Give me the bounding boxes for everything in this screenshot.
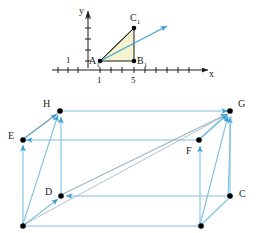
vertex-D	[58, 193, 64, 199]
label-C: C	[239, 189, 246, 199]
x-tick-label-5: 5	[131, 76, 136, 85]
label-A1: A1	[89, 56, 100, 69]
edge-A-to-D	[24, 199, 58, 225]
vertex-A-unlabeled	[20, 223, 26, 229]
x-axis-label: x	[209, 69, 214, 79]
label-H: H	[43, 99, 50, 109]
triangle-A1B1C1	[100, 28, 134, 61]
vertex-G	[227, 108, 233, 114]
figure-svg	[0, 0, 264, 233]
vertex-B-unlabeled	[198, 223, 204, 229]
y-axis-label: y	[79, 6, 84, 16]
x-tick-label-1: 1	[97, 76, 102, 85]
diagonal-A-to-H	[23, 115, 58, 224]
vertex-H	[57, 108, 63, 114]
label-B1: B1	[137, 56, 147, 69]
point-B1	[132, 59, 137, 64]
edge-E-to-H-overlay	[24, 113, 58, 138]
box-edges	[23, 111, 231, 226]
body-diagonal-A-to-G	[25, 115, 226, 224]
edge-B-to-C	[201, 199, 228, 225]
label-C1: C1	[130, 13, 140, 26]
label-G: G	[238, 99, 245, 109]
vertex-C	[227, 193, 233, 199]
figure-canvas: y x 1 1 5 A1 B1 C1 H G E F D C	[0, 0, 264, 233]
body-diagonal-D-to-G	[63, 114, 227, 194]
point-C1	[132, 26, 137, 31]
diagonal-B-to-G	[200, 116, 228, 225]
label-F: F	[186, 146, 192, 156]
label-D: D	[45, 187, 52, 197]
y-tick-label-1: 1	[66, 56, 71, 65]
vertex-E	[20, 137, 26, 143]
label-E: E	[8, 131, 14, 141]
vertex-F	[196, 137, 202, 143]
